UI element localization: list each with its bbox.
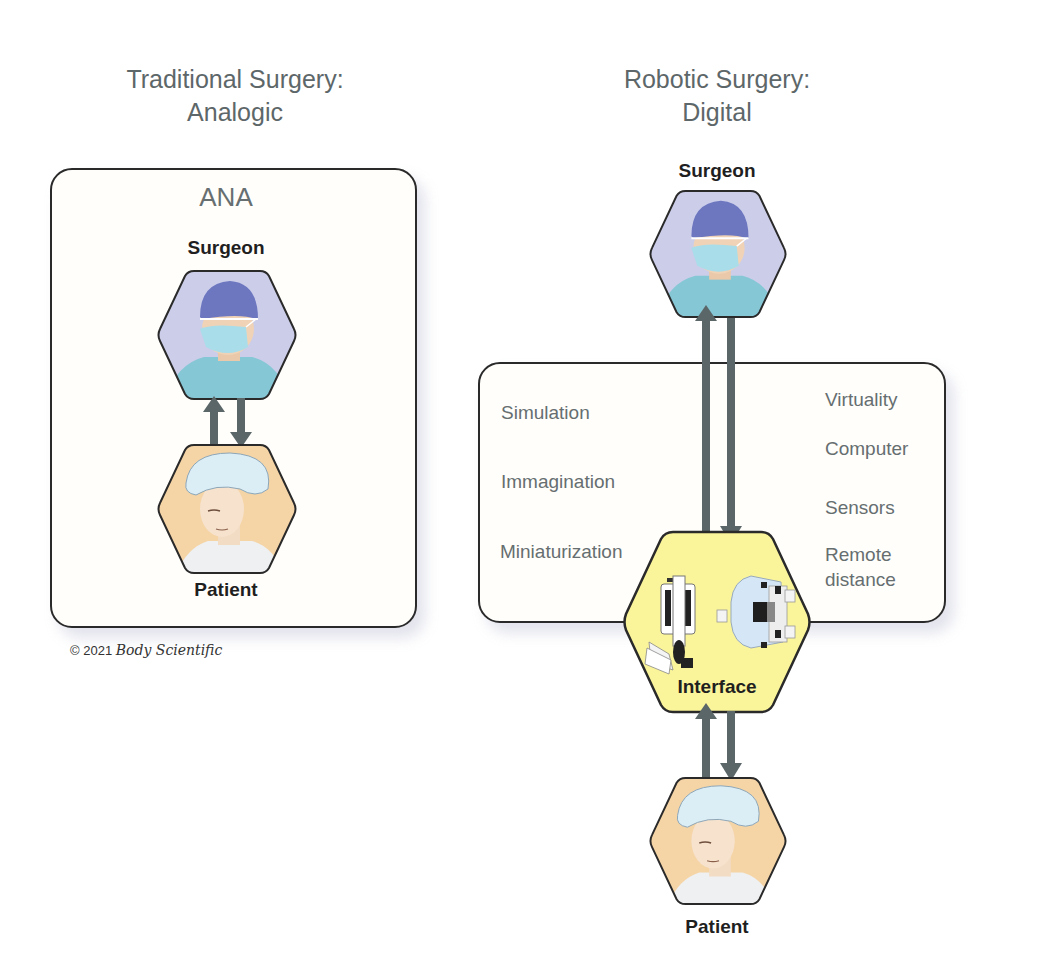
feature-miniaturization: Miniaturization	[500, 539, 623, 564]
copyright-brand: Body Scientific	[116, 642, 223, 658]
left-title-line2: Analogic	[85, 96, 385, 129]
left-surgeon-hexagon	[156, 269, 298, 401]
ana-label: ANA	[126, 182, 326, 213]
right-surgeon-label: Surgeon	[617, 160, 817, 182]
left-surgeon-label: Surgeon	[126, 237, 326, 259]
right-title-line1: Robotic Surgery:	[567, 63, 867, 96]
right-surgeon-hexagon	[648, 188, 788, 320]
feature-simulation: Simulation	[501, 400, 590, 425]
left-title-line1: Traditional Surgery:	[85, 63, 385, 96]
patient-portrait-icon	[648, 775, 788, 907]
feature-virtuality: Virtuality	[825, 387, 898, 412]
feature-remote: Remote	[825, 542, 896, 567]
feature-sensors: Sensors	[825, 495, 895, 520]
right-arrow-down-to-interface	[720, 318, 742, 544]
right-arrow-down-to-patient	[720, 711, 742, 781]
copyright: © 2021 Body Scientific	[70, 642, 222, 658]
feature-computer: Computer	[825, 436, 908, 461]
right-title-line2: Digital	[567, 96, 867, 129]
left-patient-label: Patient	[126, 579, 326, 601]
left-title: Traditional Surgery: Analogic	[85, 63, 385, 129]
patient-portrait-icon	[156, 443, 298, 575]
right-arrow-up-to-interface	[695, 703, 717, 777]
surgeon-portrait-icon	[156, 269, 298, 401]
feature-distance: distance	[825, 567, 896, 592]
left-arrow-down	[230, 398, 252, 448]
right-patient-label: Patient	[617, 916, 817, 938]
feature-remote-distance: Remote distance	[825, 542, 896, 592]
interface-label: Interface	[617, 676, 817, 698]
surgeon-portrait-icon	[648, 188, 788, 320]
left-patient-hexagon	[156, 443, 298, 575]
right-title: Robotic Surgery: Digital	[567, 63, 867, 129]
left-arrow-up	[203, 396, 225, 446]
right-arrow-up-to-surgeon	[695, 305, 717, 533]
copyright-text: © 2021	[70, 643, 112, 658]
feature-immagination: Immagination	[501, 469, 615, 494]
right-patient-hexagon	[648, 775, 788, 907]
